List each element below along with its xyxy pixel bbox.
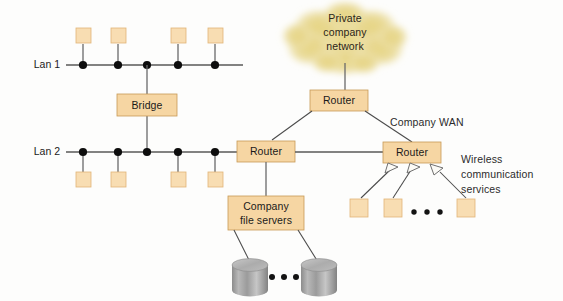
diagram-canvas: Private company network Lan 1 xyxy=(0,0,563,301)
file-servers-label-line-2: file servers xyxy=(240,214,292,226)
disk-1[interactable] xyxy=(232,259,268,297)
lan2-node-2[interactable] xyxy=(114,148,122,156)
file-servers-group: Company file servers xyxy=(228,196,337,296)
disk-2[interactable] xyxy=(301,259,337,297)
router-top-label: Router xyxy=(323,94,356,106)
lan1-segment: Lan 1 xyxy=(34,28,243,70)
lan1-node-5[interactable] xyxy=(211,61,219,69)
lan1-node-4[interactable] xyxy=(174,61,182,69)
wireless-arrowhead-1 xyxy=(385,163,398,173)
wireless-arrowhead-2 xyxy=(407,163,420,173)
network-diagram: Private company network Lan 1 xyxy=(0,0,563,301)
router-right-label: Router xyxy=(396,146,429,158)
file-servers-label-line-1: Company xyxy=(243,200,289,212)
wireless-label-line-2: communication xyxy=(461,168,534,180)
lan1-label: Lan 1 xyxy=(34,58,60,70)
lan2-terminal-2[interactable] xyxy=(111,172,126,187)
bridge-label: Bridge xyxy=(132,99,163,111)
lan2-terminal-4[interactable] xyxy=(208,172,223,187)
lan1-terminal-2[interactable] xyxy=(111,28,126,43)
router-center-group: Router xyxy=(237,141,383,196)
lan2-terminal-1[interactable] xyxy=(76,172,91,187)
wireless-terminal-3[interactable] xyxy=(457,199,475,217)
wireless-label-line-3: services xyxy=(461,183,501,195)
lan2-node-5[interactable] xyxy=(211,148,219,156)
lan2-node-3[interactable] xyxy=(143,148,151,156)
cloud-label-line-2: company xyxy=(323,26,367,38)
wireless-terminal-2[interactable] xyxy=(384,199,402,217)
wireless-link-1 xyxy=(361,170,390,198)
wireless-services-label: Wireless communication services xyxy=(461,153,534,195)
router-top-to-center-link xyxy=(272,111,312,140)
fileservers-to-disk-2-link xyxy=(298,230,318,262)
wireless-link-2 xyxy=(393,170,411,198)
router-right-group: Router xyxy=(383,142,441,163)
bridge-link: Bridge xyxy=(117,65,177,152)
lan1-node-1[interactable] xyxy=(79,61,87,69)
wireless-terminal-1[interactable] xyxy=(350,199,368,217)
company-wan-label: Company WAN xyxy=(390,116,464,128)
cloud-label-line-3: network xyxy=(326,40,364,52)
fileservers-to-disk-1-link xyxy=(234,230,250,262)
wireless-label-line-1: Wireless xyxy=(461,153,502,165)
lan1-terminal-1[interactable] xyxy=(76,28,91,43)
lan1-terminal-4[interactable] xyxy=(208,28,223,43)
wireless-links xyxy=(350,163,475,217)
lan2-terminal-3[interactable] xyxy=(171,172,186,187)
lan1-node-2[interactable] xyxy=(114,61,122,69)
router-center-label: Router xyxy=(250,145,283,157)
disks-ellipsis xyxy=(269,274,299,280)
lan2-node-4[interactable] xyxy=(174,148,182,156)
lan2-node-1[interactable] xyxy=(79,148,87,156)
wireless-ellipsis xyxy=(411,209,442,214)
lan2-segment: Lan 2 xyxy=(34,145,237,187)
lan1-terminal-3[interactable] xyxy=(171,28,186,43)
cloud-label-line-1: Private xyxy=(328,12,361,24)
lan2-label: Lan 2 xyxy=(34,145,60,157)
